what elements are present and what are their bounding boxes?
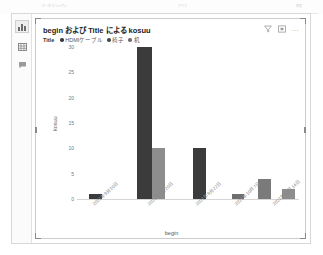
y-tick-label: 15: [68, 120, 74, 126]
y-axis-ticks: 302520151050: [58, 47, 74, 199]
x-tick-mark: [199, 199, 200, 201]
resize-handle-top-left[interactable]: [35, 18, 41, 24]
sidebar-item-chart-view[interactable]: [15, 20, 29, 33]
more-options-icon[interactable]: …: [291, 24, 300, 33]
legend-item-0[interactable]: HDMIケーブル: [60, 36, 103, 44]
card-action-bar: …: [263, 24, 300, 33]
chart-plot: kosuu 302520151050 2021年9月10日2021年9月20日2…: [36, 47, 307, 240]
vertical-scrollbar[interactable]: [302, 19, 305, 240]
y-tick-label: 30: [68, 44, 74, 50]
bar-chart-icon: [18, 23, 27, 31]
legend-item-1[interactable]: 椅子: [107, 36, 124, 44]
y-tick-label: 5: [71, 171, 74, 177]
visual-card: begin および Title による kosuu …: [35, 18, 306, 239]
chrome-tab-label: データビジュアル: [42, 4, 68, 8]
legend-swatch-icon: [60, 38, 64, 42]
speech-bubble-icon: [18, 61, 27, 69]
bars-container: [77, 47, 299, 199]
focus-mode-icon[interactable]: [277, 24, 286, 33]
sidebar-item-table-view[interactable]: [15, 40, 29, 53]
y-tick-label: 0: [71, 196, 74, 202]
legend-swatch-icon: [128, 38, 132, 42]
browser-chrome-bar: データビジュアル グラフ 設定: [0, 0, 323, 14]
chrome-right-label: 設定: [296, 4, 302, 8]
x-tick-mark: [151, 199, 152, 201]
y-tick-label: 10: [68, 145, 74, 151]
legend-title: Title: [43, 37, 54, 43]
legend-item-2[interactable]: 机: [128, 36, 139, 44]
legend-swatch-icon: [107, 38, 111, 42]
left-icon-rail: [12, 14, 32, 243]
page-title: begin および Title による kosuu: [43, 24, 151, 35]
legend-label-2: 机: [134, 36, 140, 44]
app-root: データビジュアル グラフ 設定: [0, 0, 323, 255]
sidebar-item-comment-view[interactable]: [15, 58, 29, 71]
y-tick-label: 20: [68, 95, 74, 101]
x-tick-mark: [96, 199, 97, 201]
bar-HDMIケーブル-2021年9月20日[interactable]: [137, 47, 152, 199]
legend-label-1: 椅子: [112, 36, 124, 44]
x-axis-title: begin: [36, 230, 307, 236]
filter-icon[interactable]: [263, 24, 272, 33]
more-options-label: …: [292, 26, 300, 31]
legend-label-0: HDMIケーブル: [65, 36, 103, 44]
x-tick-mark: [276, 199, 277, 201]
x-tick-mark: [238, 199, 239, 201]
table-grid-icon: [18, 43, 27, 51]
chrome-center-label: グラフ: [178, 4, 188, 8]
x-axis-line: [77, 199, 299, 200]
chart-legend: Title HDMIケーブル 椅子 机: [43, 36, 140, 44]
y-tick-label: 25: [68, 69, 74, 75]
report-window: begin および Title による kosuu …: [11, 13, 311, 244]
